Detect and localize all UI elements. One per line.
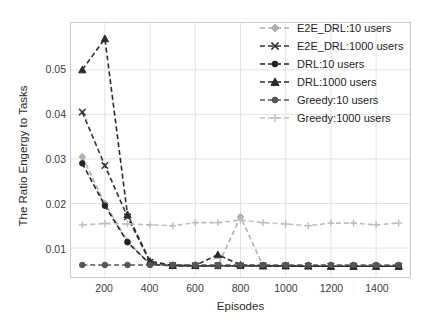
chart-root: 0.010.020.030.040.05 2004006008001000120… <box>0 0 426 325</box>
y-axis-label: The Ratio Engergy to Tasks <box>17 51 29 261</box>
legend-item[interactable]: E2E_DRL:1000 users <box>258 38 403 54</box>
legend-item-label: DRL:1000 users <box>292 76 377 88</box>
legend-marker-icon <box>258 21 292 35</box>
legend-item-label: Greedy:10 users <box>292 94 378 106</box>
legend-marker-icon <box>258 93 292 107</box>
legend-item[interactable]: E2E_DRL:10 users <box>258 20 403 36</box>
legend-item-label: E2E_DRL:10 users <box>292 22 391 34</box>
x-tick-label: 1200 <box>306 282 356 294</box>
y-tick-label: 0.05 <box>30 63 66 75</box>
legend-item[interactable]: Greedy:1000 users <box>258 110 403 126</box>
y-tick-label: 0.01 <box>30 243 66 255</box>
legend-item[interactable]: Greedy:10 users <box>258 92 403 108</box>
chart-legend: E2E_DRL:10 usersE2E_DRL:1000 usersDRL:10… <box>258 20 403 126</box>
y-tick-label: 0.04 <box>30 108 66 120</box>
legend-marker-icon <box>258 57 292 71</box>
x-tick-label: 200 <box>79 282 129 294</box>
legend-item-label: E2E_DRL:1000 users <box>292 40 403 52</box>
legend-item[interactable]: DRL:10 users <box>258 56 403 72</box>
legend-marker-icon <box>258 111 292 125</box>
x-tick-label: 600 <box>170 282 220 294</box>
x-tick-label: 1400 <box>352 282 402 294</box>
x-axis-ticks: 200400600800100012001400 <box>70 282 411 298</box>
x-tick-label: 400 <box>125 282 175 294</box>
legend-item-label: DRL:10 users <box>292 58 364 70</box>
x-tick-label: 1000 <box>261 282 311 294</box>
y-tick-label: 0.03 <box>30 153 66 165</box>
x-axis-label: Episodes <box>70 300 411 312</box>
x-tick-label: 800 <box>216 282 266 294</box>
legend-item-label: Greedy:1000 users <box>292 112 391 124</box>
series-4 <box>80 262 402 268</box>
y-tick-label: 0.02 <box>30 198 66 210</box>
legend-item[interactable]: DRL:1000 users <box>258 74 403 90</box>
legend-marker-icon <box>258 39 292 53</box>
series-5 <box>79 216 402 229</box>
legend-marker-icon <box>258 75 292 89</box>
